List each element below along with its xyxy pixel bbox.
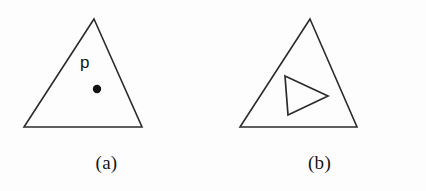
inner-triangle-b <box>285 76 328 115</box>
panel-b-drawing <box>213 0 426 140</box>
panel-a-drawing <box>0 0 213 140</box>
caption-b: (b) <box>213 152 426 174</box>
figure-container: p (a) (b) <box>0 0 426 191</box>
caption-a: (a) <box>0 152 213 174</box>
figure-panel-a: p (a) <box>0 0 213 191</box>
outer-triangle-a <box>24 19 142 127</box>
point-label-p: p <box>80 54 89 71</box>
point-marker-dot <box>93 85 101 93</box>
figure-panel-b: (b) <box>213 0 426 191</box>
